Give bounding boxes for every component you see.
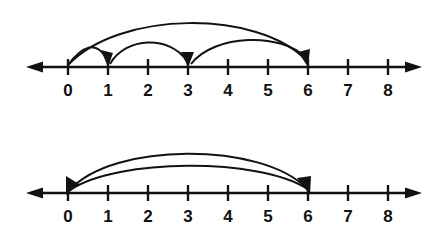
- tick-label-8: 8: [383, 81, 392, 100]
- tick-label-6: 6: [303, 81, 312, 100]
- tick-label-4: 4: [223, 81, 233, 100]
- axis-left-arrowhead-icon: [26, 188, 43, 199]
- tick-label-1: 1: [103, 81, 112, 100]
- axis-right-arrowhead-icon: [405, 188, 422, 199]
- tick-label-8: 8: [383, 207, 392, 226]
- top-number-line-panel: 0 1 2 3 4 5 6 7 8: [0, 0, 448, 118]
- axis-right-arrowhead-icon: [405, 62, 422, 73]
- tick-label-0: 0: [63, 207, 72, 226]
- top-number-line-svg: 0 1 2 3 4 5 6 7 8: [0, 0, 448, 118]
- tick-label-3: 3: [183, 207, 192, 226]
- tick-label-2: 2: [143, 207, 152, 226]
- arc-3-to-6: [191, 40, 306, 64]
- tick-label-1: 1: [103, 207, 112, 226]
- tick-label-0: 0: [63, 81, 72, 100]
- tick-label-2: 2: [143, 81, 152, 100]
- tick-label-7: 7: [343, 81, 352, 100]
- arc-arrowhead-at-3-icon: [181, 52, 194, 67]
- tick-label-7: 7: [343, 207, 352, 226]
- number-line-figure: 0 1 2 3 4 5 6 7 8: [0, 0, 448, 236]
- tick-label-4: 4: [223, 207, 233, 226]
- tick-label-6: 6: [303, 207, 312, 226]
- arc-0-to-6-outer: [70, 154, 306, 190]
- bottom-number-line-svg: 0 1 2 3 4 5 6 7 8: [0, 118, 448, 236]
- axis-left-arrowhead-icon: [26, 62, 43, 73]
- tick-label-5: 5: [263, 207, 272, 226]
- bottom-number-line-panel: 0 1 2 3 4 5 6 7 8: [0, 118, 448, 236]
- arc-arrowhead-at-6-icon: [298, 49, 310, 67]
- tick-label-3: 3: [183, 81, 192, 100]
- tick-label-5: 5: [263, 81, 272, 100]
- arc-arrowhead-at-1-icon: [101, 50, 113, 67]
